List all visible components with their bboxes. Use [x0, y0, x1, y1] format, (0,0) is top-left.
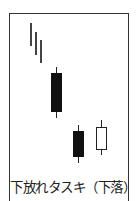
- bullish-candle-body: [96, 127, 107, 150]
- trend-line: [30, 23, 32, 46]
- chart-frame: [9, 13, 129, 201]
- bearish-candle-body: [73, 131, 84, 157]
- trend-line: [35, 32, 37, 55]
- trend-line: [40, 40, 42, 63]
- bearish-candle-body: [51, 73, 62, 112]
- pattern-caption: 下放れタスキ（下落）: [10, 176, 130, 196]
